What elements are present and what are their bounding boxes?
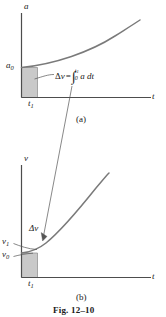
panel-b-y-value-lower-label: v0 xyxy=(2,250,9,260)
panel-b-delta-label: Δv xyxy=(29,224,38,233)
integral-upper-limit: t1 xyxy=(75,68,79,75)
panel-a-x-axis-label: t xyxy=(152,92,155,101)
panel-b-leader-v1 xyxy=(14,244,38,250)
panel-a-tag: (a) xyxy=(76,114,86,124)
panel-b-x-axis-label: t xyxy=(152,272,155,281)
panel-a-x-mark-label: t1 xyxy=(28,99,34,109)
panel-b-curve xyxy=(22,173,110,253)
figure-12-10: a a0 t1 t Δv=∫t10a dt (a) v Δv v1 v0 t1 … xyxy=(0,0,166,317)
delta-variable: v xyxy=(61,71,65,81)
panel-b-y-value-upper-subscript: 1 xyxy=(6,240,9,247)
panel-a-curve xyxy=(22,20,141,68)
integral-lower-limit: 0 xyxy=(75,75,79,81)
panel-b-graphics xyxy=(14,165,152,278)
panel-a-y-axis-label: a xyxy=(24,2,29,11)
integrand: a dt xyxy=(80,71,94,81)
panel-a-y-intercept-subscript: 0 xyxy=(11,64,14,71)
integral-limits: t10 xyxy=(75,68,79,81)
panel-b-delta-variable: v xyxy=(34,223,38,233)
panel-a-y-intercept-label: a0 xyxy=(6,61,14,71)
equals-sign: = xyxy=(66,71,71,81)
panel-b-y-axis-label: v xyxy=(24,154,28,163)
connector-arrow-shaft xyxy=(44,86,73,236)
panel-b-y-value-upper-label: v1 xyxy=(2,237,9,247)
panel-b-x-mark-label: t1 xyxy=(28,279,34,289)
integral-upper-limit-subscript: 1 xyxy=(76,69,78,74)
panel-a-x-mark-subscript: 1 xyxy=(31,102,34,109)
panel-b-x-mark-subscript: 1 xyxy=(31,282,34,289)
panel-a-shaded-region xyxy=(22,68,38,98)
panel-b-y-value-lower-subscript: 0 xyxy=(6,253,9,260)
panel-b-tag: (b) xyxy=(76,292,87,302)
panel-connector-arrow xyxy=(41,86,72,241)
figure-caption: Fig. 12–10 xyxy=(53,305,95,315)
panel-a-integral-annotation: Δv=∫t10a dt xyxy=(55,68,94,85)
panel-b-shaded-region xyxy=(22,253,38,278)
